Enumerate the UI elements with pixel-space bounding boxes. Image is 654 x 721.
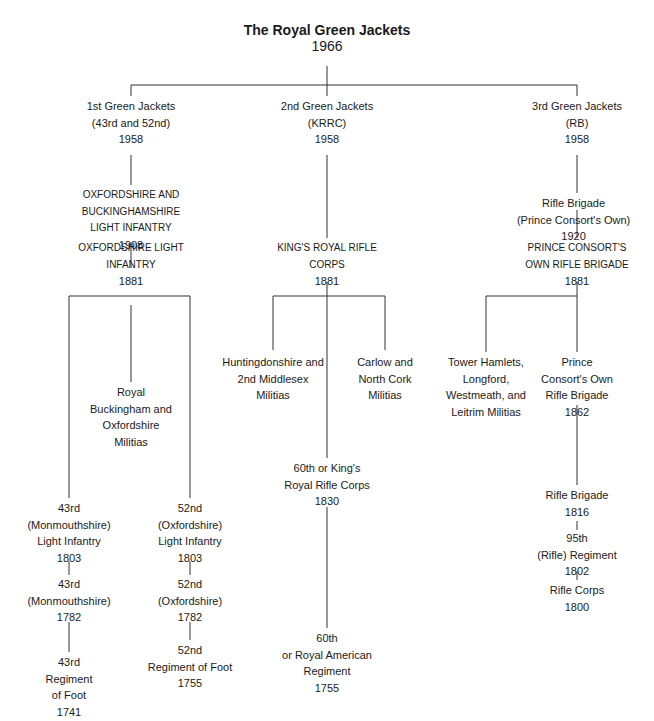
node-rifle-brigade-pco-1920: Rifle Brigade (Prince Consort's Own) 192…: [517, 195, 630, 245]
node-label: 2nd Middlesex: [222, 371, 324, 388]
node-label: OXFORDSHIRE AND: [82, 187, 180, 204]
node-1st-green-jackets: 1st Green Jackets (43rd and 52nd) 1958: [87, 98, 176, 148]
node-label: Rifle Brigade: [546, 487, 609, 504]
node-rifle-corps-1800: Rifle Corps 1800: [550, 582, 604, 615]
node-label: OWN RIFLE BRIGADE: [525, 257, 628, 274]
node-prince-consorts-own-rifle-brigade-1881: PRINCE CONSORT'S OWN RIFLE BRIGADE 1881: [525, 240, 628, 290]
node-label: CORPS: [277, 257, 377, 274]
node-label: Militias: [357, 387, 413, 404]
node-year: 1816: [546, 504, 609, 521]
node-label: INFANTRY: [78, 257, 184, 274]
node-year: 1881: [277, 273, 377, 290]
node-label: Rifle Brigade: [517, 195, 630, 212]
node-label: 52nd: [158, 576, 222, 593]
node-52nd-oxfordshire-1782: 52nd (Oxfordshire) 1782: [158, 576, 222, 626]
node-label: Royal: [90, 384, 172, 401]
node-label: Regiment: [282, 663, 372, 680]
node-year: 1958: [532, 131, 622, 148]
node-label: 52nd: [158, 500, 222, 517]
diagram-title: The Royal Green Jackets: [244, 22, 411, 38]
node-label: 52nd: [148, 642, 232, 659]
node-label: (Rifle) Regiment: [537, 547, 616, 564]
node-year: 1803: [158, 550, 222, 567]
node-year: 1881: [525, 273, 628, 290]
node-label: (KRRC): [281, 115, 373, 132]
node-year: 1862: [541, 404, 613, 421]
node-oxfordshire-light-infantry-1881: OXFORDSHIRE LIGHT INFANTRY 1881: [78, 240, 184, 290]
node-label: or Royal American: [282, 647, 372, 664]
node-label: 2nd Green Jackets: [281, 98, 373, 115]
node-2nd-green-jackets: 2nd Green Jackets (KRRC) 1958: [281, 98, 373, 148]
node-rifle-brigade-1816: Rifle Brigade 1816: [546, 487, 609, 520]
node-label: 1st Green Jackets: [87, 98, 176, 115]
node-year: 1741: [45, 704, 92, 721]
node-label: LIGHT INFANTRY: [82, 220, 180, 237]
node-label: Light Infantry: [158, 533, 222, 550]
node-label: Buckingham and: [90, 401, 172, 418]
node-label: of Foot: [45, 687, 92, 704]
node-3rd-green-jackets: 3rd Green Jackets (RB) 1958: [532, 98, 622, 148]
node-label: Oxfordshire: [90, 417, 172, 434]
node-label: KING'S ROYAL RIFLE: [277, 240, 377, 257]
node-label: 43rd: [27, 576, 110, 593]
node-label: OXFORDSHIRE LIGHT: [78, 240, 184, 257]
node-label: 95th: [537, 530, 616, 547]
node-label: Militias: [222, 387, 324, 404]
node-label: 60th: [282, 630, 372, 647]
node-label: (Oxfordshire): [158, 517, 222, 534]
node-label: 60th or King's: [284, 460, 370, 477]
node-year: 1958: [87, 131, 176, 148]
node-carlow-north-cork-militias: Carlow and North Cork Militias: [357, 354, 413, 404]
node-43rd-regiment-of-foot-1741: 43rd Regiment of Foot 1741: [45, 654, 92, 720]
node-label: Rifle Corps: [550, 582, 604, 599]
node-label: (Monmouthshire): [27, 517, 110, 534]
node-95th-rifle-regiment-1802: 95th (Rifle) Regiment 1802: [537, 530, 616, 580]
node-label: 43rd: [27, 500, 110, 517]
node-label: Royal Rifle Corps: [284, 477, 370, 494]
node-year: 1958: [281, 131, 373, 148]
node-52nd-regiment-of-foot-1755: 52nd Regiment of Foot 1755: [148, 642, 232, 692]
node-year: 1803: [27, 550, 110, 567]
root-node: The Royal Green Jackets 1966: [244, 22, 411, 54]
node-60th-kings-royal-rifle-corps-1830: 60th or King's Royal Rifle Corps 1830: [284, 460, 370, 510]
node-label: (Oxfordshire): [158, 593, 222, 610]
node-year: 1782: [27, 609, 110, 626]
node-label: North Cork: [357, 371, 413, 388]
node-label: 3rd Green Jackets: [532, 98, 622, 115]
node-label: Rifle Brigade: [541, 387, 613, 404]
node-royal-bucks-oxf-militias: Royal Buckingham and Oxfordshire Militia…: [90, 384, 172, 450]
node-43rd-light-infantry-1803: 43rd (Monmouthshire) Light Infantry 1803: [27, 500, 110, 566]
node-year: 1802: [537, 563, 616, 580]
node-year: 1782: [158, 609, 222, 626]
node-year: 1755: [148, 675, 232, 692]
node-label: (43rd and 52nd): [87, 115, 176, 132]
node-kings-royal-rifle-corps-1881: KING'S ROYAL RIFLE CORPS 1881: [277, 240, 377, 290]
node-huntingdonshire-middlesex-militias: Huntingdonshire and 2nd Middlesex Militi…: [222, 354, 324, 404]
node-year: 1830: [284, 493, 370, 510]
node-label: PRINCE CONSORT'S: [525, 240, 628, 257]
node-tower-hamlets-militias: Tower Hamlets, Longford, Westmeath, and …: [446, 354, 526, 420]
node-label: Light Infantry: [27, 533, 110, 550]
node-label: Westmeath, and: [446, 387, 526, 404]
node-label: Consort's Own: [541, 371, 613, 388]
diagram-title-year: 1966: [244, 38, 411, 54]
node-label: Carlow and: [357, 354, 413, 371]
node-label: Prince: [541, 354, 613, 371]
node-year: 1755: [282, 680, 372, 697]
node-label: (Prince Consort's Own): [517, 212, 630, 229]
node-60th-royal-american-regiment-1755: 60th or Royal American Regiment 1755: [282, 630, 372, 696]
node-label: Huntingdonshire and: [222, 354, 324, 371]
node-prince-consorts-own-rifle-brigade-1862: Prince Consort's Own Rifle Brigade 1862: [541, 354, 613, 420]
node-label: Militias: [90, 434, 172, 451]
node-label: Leitrim Militias: [446, 404, 526, 421]
node-52nd-light-infantry-1803: 52nd (Oxfordshire) Light Infantry 1803: [158, 500, 222, 566]
node-label: Regiment: [45, 671, 92, 688]
node-label: Longford,: [446, 371, 526, 388]
node-year: 1881: [78, 273, 184, 290]
node-year: 1800: [550, 599, 604, 616]
node-label: (RB): [532, 115, 622, 132]
node-label: 43rd: [45, 654, 92, 671]
node-label: (Monmouthshire): [27, 593, 110, 610]
node-label: BUCKINGHAMSHIRE: [82, 204, 180, 221]
node-label: Tower Hamlets,: [446, 354, 526, 371]
